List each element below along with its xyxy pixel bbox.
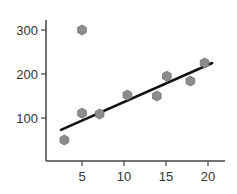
data-point-hexagon xyxy=(163,71,172,81)
data-point-hexagon xyxy=(123,90,132,100)
data-points xyxy=(60,25,209,145)
data-point-hexagon xyxy=(200,58,209,68)
data-point-hexagon xyxy=(152,91,161,101)
data-point-hexagon xyxy=(78,25,87,35)
data-point-hexagon xyxy=(78,108,87,118)
scatter-chart: 1002003005101520 xyxy=(0,0,237,194)
x-tick-label: 20 xyxy=(201,169,215,184)
trendline xyxy=(61,63,212,130)
axes: 1002003005101520 xyxy=(16,20,225,184)
x-tick-label: 15 xyxy=(159,169,173,184)
trendline-path xyxy=(61,63,212,130)
data-point-hexagon xyxy=(95,109,104,119)
x-tick-label: 10 xyxy=(117,169,131,184)
y-tick-label: 200 xyxy=(16,67,38,82)
data-point-hexagon xyxy=(186,76,195,86)
y-tick-label: 100 xyxy=(16,111,38,126)
x-tick-label: 5 xyxy=(78,169,85,184)
data-point-hexagon xyxy=(60,135,69,145)
y-tick-label: 300 xyxy=(16,23,38,38)
